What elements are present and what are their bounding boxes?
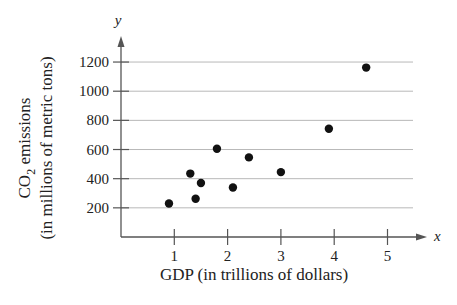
y-axis-title-line1: CO2 emissions — [15, 98, 38, 199]
y-axis-title-line2: (in millions of metric tons) — [37, 56, 56, 239]
data-point — [165, 199, 173, 207]
y-tick-label: 600 — [87, 142, 110, 158]
y-axis-arrow-icon — [118, 36, 125, 47]
x-tick-label: 1 — [171, 248, 179, 264]
data-point — [245, 153, 253, 161]
x-axis-variable: x — [433, 228, 441, 244]
axes — [118, 36, 428, 241]
x-axis-title: GDP (in trillions of dollars) — [160, 265, 348, 284]
y-axis-variable: y — [113, 12, 122, 28]
data-point — [362, 63, 370, 71]
data-point — [325, 125, 333, 133]
data-point — [229, 183, 237, 191]
data-point — [191, 195, 199, 203]
y-axis-title: CO2 emissions (in millions of metric ton… — [15, 56, 56, 239]
data-points — [165, 63, 371, 207]
y-tick-label: 400 — [87, 171, 110, 187]
data-point — [197, 179, 205, 187]
data-point — [277, 168, 285, 176]
x-ticks: 12345 — [171, 229, 392, 264]
x-axis-arrow-icon — [416, 234, 427, 241]
y-tick-label: 200 — [87, 200, 110, 216]
y-tick-label: 1000 — [79, 83, 109, 99]
x-tick-label: 3 — [277, 248, 285, 264]
gridlines — [121, 62, 413, 208]
y-tick-label: 1200 — [79, 54, 109, 70]
scatter-chart: 12345 20040060080010001200 y x GDP (in t… — [0, 0, 457, 305]
y-tick-label: 800 — [87, 112, 110, 128]
data-point — [213, 145, 221, 153]
x-tick-label: 2 — [224, 248, 232, 264]
x-tick-label: 4 — [330, 248, 338, 264]
x-tick-label: 5 — [384, 248, 392, 264]
data-point — [186, 169, 194, 177]
